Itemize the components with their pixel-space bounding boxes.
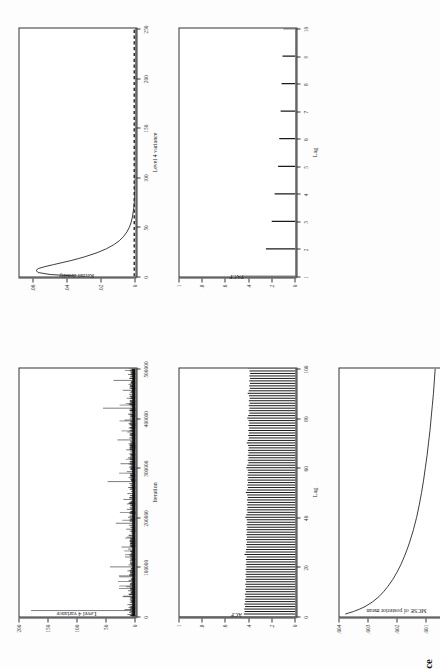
mcse-y-tick-label: .004 — [335, 624, 341, 657]
trace-y-tick-label: 0 — [131, 624, 137, 657]
trace-plot-area — [19, 368, 135, 616]
trace-x-tick-label: 300000 — [142, 460, 148, 476]
pacf-x-tick-label: 9 — [302, 55, 308, 58]
pacf-y-tick-label: 0 — [291, 284, 297, 317]
density-x-tick-label: 100 — [142, 174, 148, 182]
density-x-tick — [136, 177, 140, 178]
trace-y-tick-label: 200 — [15, 624, 21, 657]
figure-page: 0100000200000300000400000500000 Iteratio… — [0, 0, 440, 669]
trace-x-title: Iteration — [151, 482, 157, 502]
mcse-y-title: MCSE of posterior mean — [316, 607, 440, 613]
trace-y-tick — [76, 618, 77, 622]
acf-x-tick-label: 0 — [302, 616, 308, 619]
pacf-x-tick-label: 5 — [302, 165, 308, 168]
acf-y-tick — [178, 618, 179, 622]
trace-y-title: Level 4 variance — [16, 610, 136, 616]
trace-x-tick-label: 400000 — [142, 411, 148, 427]
pacf-x-tick — [296, 248, 300, 249]
acf-y-tick — [294, 618, 295, 622]
pacf-x-tick-label: 4 — [302, 193, 308, 196]
density-x-tick — [136, 127, 140, 128]
trace-y-tick — [134, 618, 135, 622]
density-y-tick-label: 0 — [131, 284, 137, 317]
pacf-x-tick — [296, 83, 300, 84]
mcse-y-tick — [367, 618, 368, 622]
pacf-x-tick-label: 2 — [302, 248, 308, 251]
panel-kernel-density-plot: 050100150200250 Level 4 variance 0.02.04… — [18, 27, 168, 277]
mcse-y-tick-label: .002 — [393, 624, 399, 657]
pacf-x-tick — [296, 111, 300, 112]
trace-x-tick-label: 200000 — [142, 510, 148, 526]
acf-y-tick-label: 1 — [175, 624, 181, 657]
acf-y-tick-label: .4 — [245, 624, 251, 657]
pacf-y-tick-label: .4 — [245, 284, 251, 317]
trace-y-tick-label: 100 — [73, 624, 79, 657]
pacf-plot-area — [179, 28, 295, 276]
trace-y-tick-label: 150 — [44, 624, 50, 657]
density-x-tick-label: 200 — [142, 75, 148, 83]
pacf-x-tick — [296, 56, 300, 57]
density-x-tick — [136, 276, 140, 277]
density-x-tick — [136, 28, 140, 29]
acf-x-tick — [296, 467, 300, 468]
density-x-tick-label: 0 — [142, 276, 148, 279]
mcse-plot-area — [339, 368, 440, 616]
acf-y-tick-label: .2 — [268, 624, 274, 657]
trace-x-tick-label: 0 — [142, 616, 148, 619]
pacf-x-tick — [296, 28, 300, 29]
pacf-x-tick — [296, 193, 300, 194]
acf-y-tick-label: .8 — [198, 624, 204, 657]
pacf-y-tick-label: .8 — [198, 284, 204, 317]
pacf-x-tick-label: 8 — [302, 83, 308, 86]
trace-x-tick-label: 500000 — [142, 361, 148, 377]
density-y-tick-label: .06 — [29, 284, 35, 317]
pacf-x-tick-label: 7 — [302, 110, 308, 113]
acf-y-title: ACF — [181, 611, 291, 617]
density-x-tick-label: 50 — [142, 225, 148, 230]
pacf-y-tick-label: .6 — [221, 284, 227, 317]
panel-trace-plot: 0100000200000300000400000500000 Iteratio… — [18, 367, 168, 617]
pacf-y-tick — [178, 278, 179, 282]
acf-x-tick — [296, 368, 300, 369]
acf-y-tick — [271, 618, 272, 622]
panel-mcse-plot: 0200000040000006000000800000010000000 It… — [338, 367, 440, 617]
acf-y-tick-label: 0 — [291, 624, 297, 657]
density-y-title: Kernel density — [16, 272, 136, 278]
trace-x-tick-label: 100000 — [142, 559, 148, 575]
density-y-tick — [100, 278, 101, 282]
pacf-x-tick-label: 1 — [302, 276, 308, 279]
mcse-y-tick-label: .001 — [422, 624, 428, 657]
pacf-x-tick — [296, 221, 300, 222]
acf-y-tick — [224, 618, 225, 622]
trace-y-tick — [18, 618, 19, 622]
panel-acf-plot: 020406080100 Lag 0.2.4.6.81 ACF — [178, 367, 328, 617]
density-x-tick — [136, 78, 140, 79]
mcse-y-tick — [425, 618, 426, 622]
density-x-title: Level 4 variance — [151, 132, 157, 172]
trace-y-tick — [47, 618, 48, 622]
pacf-x-tick — [296, 276, 300, 277]
pacf-y-tick-label: 1 — [175, 284, 181, 317]
pacf-x-tick — [296, 166, 300, 167]
acf-x-tick — [296, 566, 300, 567]
acf-plot-area — [179, 368, 295, 616]
acf-x-tick — [296, 517, 300, 518]
trace-y-tick-label: 50 — [102, 624, 108, 657]
trace-x-tick — [136, 616, 140, 617]
density-y-tick — [32, 278, 33, 282]
acf-x-tick — [296, 616, 300, 617]
acf-y-tick — [248, 618, 249, 622]
trace-x-tick — [136, 368, 140, 369]
density-x-tick — [136, 226, 140, 227]
mcse-y-tick — [396, 618, 397, 622]
acf-x-tick-label: 100 — [302, 365, 308, 373]
acf-x-tick-label: 80 — [302, 416, 308, 421]
trace-x-tick — [136, 517, 140, 518]
density-y-tick-label: .02 — [97, 284, 103, 317]
figure-caption-title: Level 4 variance — [422, 659, 434, 669]
pacf-y-title: PACF — [181, 273, 291, 279]
acf-y-tick — [201, 618, 202, 622]
density-y-tick — [66, 278, 67, 282]
density-x-tick-label: 250 — [142, 25, 148, 33]
acf-y-tick-label: .6 — [221, 624, 227, 657]
